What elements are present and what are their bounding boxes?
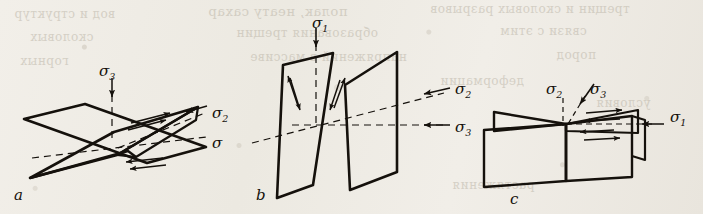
sigma-glyph: σ xyxy=(670,108,680,126)
panel-letter-c: c xyxy=(510,190,518,208)
sigma-subscript: 3 xyxy=(465,127,471,138)
panel-b-artwork xyxy=(252,28,450,198)
panel-b-shear-arrow-left-2 xyxy=(288,76,298,106)
sigma-subscript: 2 xyxy=(465,89,471,100)
panel-b-sigma2-arrow[interactable] xyxy=(424,88,450,94)
panel-c-flap-upper-right[interactable] xyxy=(566,110,638,133)
sigma-glyph: σ xyxy=(590,80,600,98)
sigma-glyph: σ xyxy=(212,104,222,122)
panel-c-panel-lower-left[interactable] xyxy=(484,124,566,187)
panel-a-shear-arrow-lower-2 xyxy=(130,165,166,169)
panel-c-sigma-1-label: σ1 xyxy=(670,108,686,128)
sigma-subscript: 3 xyxy=(109,71,115,82)
sigma-glyph: σ xyxy=(312,14,322,32)
panel-b-plane-right[interactable] xyxy=(345,52,397,190)
sigma-subscript: 1 xyxy=(322,23,328,34)
sigma-glyph: σ xyxy=(546,80,556,98)
panel-c-panel-lower-right[interactable] xyxy=(566,116,632,181)
panel-c-shear-arrow-1 xyxy=(586,110,622,113)
stress-plane-figure: полак, неату сахартрещин и сколовых разр… xyxy=(0,0,703,214)
panel-c-sigma-3-label: σ3 xyxy=(590,80,606,100)
panel-letter-b: b xyxy=(256,186,266,204)
sigma-subscript: 2 xyxy=(556,89,562,100)
panel-b-sigma-2-label: σ2 xyxy=(455,80,471,100)
panel-c-shear-arrow-4 xyxy=(584,138,620,140)
panel-a-plane-blade[interactable] xyxy=(117,107,198,157)
panel-c-artwork xyxy=(484,84,664,187)
sigma-glyph: σ xyxy=(99,62,109,80)
panel-c-sigma-2-label: σ2 xyxy=(546,80,562,100)
diagram-artwork xyxy=(0,0,703,214)
panel-a-sigma-3-label: σ3 xyxy=(99,62,115,82)
panel-a-sigma-1-label: σ xyxy=(212,134,222,154)
sigma-glyph: σ xyxy=(455,118,465,136)
sigma-subscript: 3 xyxy=(600,89,606,100)
sigma-glyph: σ xyxy=(212,134,222,152)
sigma-glyph: σ xyxy=(455,80,465,98)
panel-a-sigma-2-label: σ2 xyxy=(212,104,228,124)
panel-b-sigma-1-label: σ1 xyxy=(312,14,328,34)
panel-a-artwork xyxy=(24,78,207,178)
panel-a-plane-lower[interactable] xyxy=(30,107,198,178)
panel-letter-a: a xyxy=(14,186,23,204)
sigma-subscript: 1 xyxy=(680,117,686,128)
sigma-subscript: 2 xyxy=(222,113,228,124)
panel-b-sigma-3-label: σ3 xyxy=(455,118,471,138)
